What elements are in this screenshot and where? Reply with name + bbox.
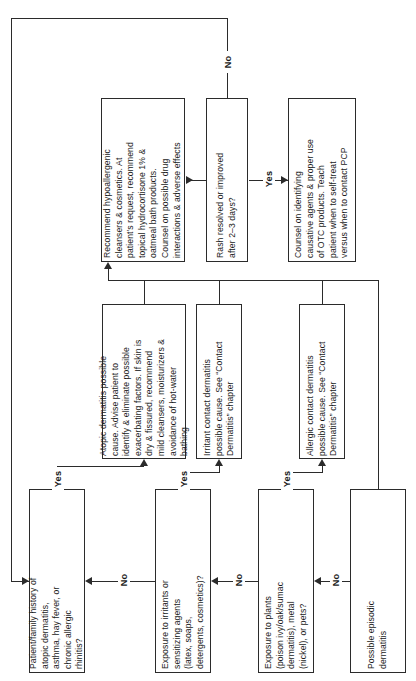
edge-q4-no-top bbox=[11, 18, 228, 19]
edge-atopic-riser bbox=[144, 280, 145, 304]
edge-q3-yes-line-v2 bbox=[322, 466, 323, 473]
node-treatment: Recommend hypoallergenic cleansers & cos… bbox=[101, 98, 185, 262]
edge-q1-yes-arrowhead bbox=[140, 459, 148, 466]
node-counsel-label: Counsel on identifying causative agents … bbox=[293, 102, 351, 258]
node-atopic-label: Atopic dermatitis possible cause. Advise… bbox=[98, 308, 191, 456]
edge-q1-yes-line-h bbox=[57, 466, 144, 467]
edge-merge-into-treatment bbox=[108, 268, 109, 281]
node-counsel: Counsel on identifying causative agents … bbox=[288, 98, 356, 262]
edge-q2-no-arrowhead bbox=[211, 577, 218, 585]
node-q4-label: Rash resolved or improved after 2–3 days… bbox=[215, 102, 238, 258]
edge-q2-yes-label: Yes bbox=[178, 467, 190, 491]
node-q2-label: Exposure to irritants or sensitizing age… bbox=[160, 493, 206, 669]
edge-q3-no-arrowhead bbox=[314, 577, 321, 585]
node-q1-label: Patient/family history of atopic dermati… bbox=[28, 493, 86, 669]
edge-allergic-riser bbox=[322, 280, 323, 304]
edge-q1-no-arrowhead bbox=[85, 577, 92, 585]
node-q1-history: Patient/family history of atopic dermati… bbox=[29, 489, 85, 673]
node-episodic-label: Possible episodic dermatitis bbox=[366, 493, 389, 669]
edge-q4-no-label: No bbox=[222, 51, 234, 73]
node-q3-label: Exposure to plants (poison ivy/oak/sumac… bbox=[263, 493, 309, 669]
node-q3-plants: Exposure to plants (poison ivy/oak/sumac… bbox=[258, 489, 314, 673]
edge-q1-no-label: No bbox=[118, 570, 130, 590]
edge-q4-no-drop bbox=[11, 18, 12, 581]
edge-q2-yes-line-v2 bbox=[219, 466, 220, 473]
node-irritant-label: Irritant contact dermatitis possible cau… bbox=[202, 308, 237, 456]
node-allergic-label: Allergic contact dermatitis possible cau… bbox=[305, 308, 340, 456]
node-allergic-cause: Allergic contact dermatitis possible cau… bbox=[299, 304, 345, 459]
edge-merge-arrowhead bbox=[104, 262, 112, 269]
node-atopic-cause: Atopic dermatitis possible cause. Advise… bbox=[102, 304, 186, 459]
edge-merge-bus bbox=[108, 280, 379, 281]
edge-q4-yes-arrowhead bbox=[281, 176, 288, 184]
edge-q2-yes-arrowhead bbox=[215, 459, 223, 466]
edge-q4-yes-label: Yes bbox=[263, 167, 275, 191]
node-q4-rash-resolved: Rash resolved or improved after 2–3 days… bbox=[206, 98, 248, 262]
node-q2-irritants: Exposure to irritants or sensitizing age… bbox=[155, 489, 211, 673]
node-treatment-label: Recommend hypoallergenic cleansers & cos… bbox=[102, 102, 183, 258]
edge-q2-no-label: No bbox=[233, 570, 245, 590]
flowchart-canvas: Patient/family history of atopic dermati… bbox=[0, 0, 416, 681]
edge-episodic-riser bbox=[378, 280, 379, 489]
edge-q1-yes-label: Yes bbox=[52, 467, 64, 491]
edge-q3-no-label: No bbox=[330, 570, 342, 590]
edge-q4-no-arrowhead bbox=[22, 577, 29, 585]
edge-treatment-to-q4-arrowhead bbox=[186, 176, 193, 184]
edge-irritant-riser bbox=[219, 280, 220, 304]
edge-q3-yes-arrowhead bbox=[318, 459, 326, 466]
node-irritant-cause: Irritant contact dermatitis possible cau… bbox=[196, 304, 242, 459]
edge-q3-yes-label: Yes bbox=[281, 467, 293, 491]
node-episodic-dermatitis: Possible episodic dermatitis bbox=[350, 489, 406, 673]
